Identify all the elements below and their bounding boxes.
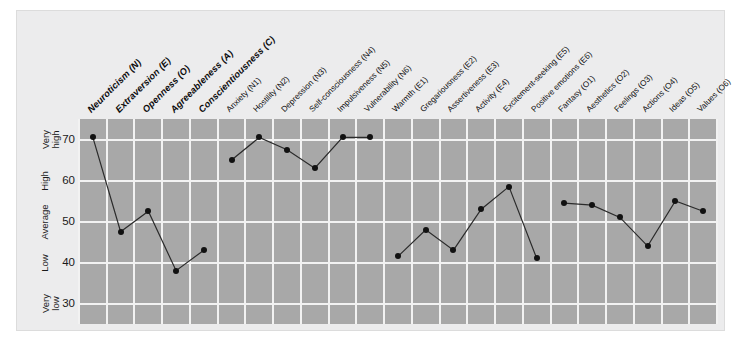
gridline-vertical xyxy=(355,119,357,324)
gridline-vertical xyxy=(633,119,635,324)
data-point-marker xyxy=(118,229,124,235)
gridline-horizontal xyxy=(79,303,717,305)
data-point-marker xyxy=(229,157,235,163)
gridline-vertical xyxy=(577,119,579,324)
gridline-vertical xyxy=(78,119,80,324)
y-axis-tick-number: 50 xyxy=(49,216,75,227)
series-line xyxy=(93,137,204,270)
y-axis-tick-number: 40 xyxy=(49,257,75,268)
gridline-vertical xyxy=(522,119,524,324)
gridline-vertical xyxy=(217,119,219,324)
data-point-marker xyxy=(395,253,401,259)
gridline-vertical xyxy=(494,119,496,324)
gridline-vertical xyxy=(383,119,385,324)
data-point-marker xyxy=(340,134,346,140)
data-point-marker xyxy=(450,247,456,253)
gridline-vertical xyxy=(189,119,191,324)
y-axis-tick-label: Average xyxy=(40,199,50,245)
plot-area xyxy=(79,119,717,324)
data-point-marker xyxy=(312,165,318,171)
gridline-vertical xyxy=(439,119,441,324)
y-axis-tick-number: 60 xyxy=(49,175,75,186)
data-point-marker xyxy=(700,208,706,214)
gridline-vertical xyxy=(716,119,718,324)
y-axis-tick-label: Verylow xyxy=(41,280,60,326)
data-point-marker xyxy=(173,268,179,274)
data-point-marker xyxy=(284,147,290,153)
gridline-vertical xyxy=(605,119,607,324)
data-point-marker xyxy=(201,247,207,253)
y-axis-tick-label: Veryhigh xyxy=(41,116,60,162)
gridline-vertical xyxy=(161,119,163,324)
gridline-vertical xyxy=(661,119,663,324)
gridline-vertical xyxy=(133,119,135,324)
gridline-horizontal xyxy=(79,262,717,264)
data-point-marker xyxy=(423,227,429,233)
gridline-horizontal xyxy=(79,221,717,223)
gridline-vertical xyxy=(466,119,468,324)
gridline-vertical xyxy=(550,119,552,324)
data-point-marker xyxy=(617,214,623,220)
data-point-marker xyxy=(506,184,512,190)
gridline-vertical xyxy=(688,119,690,324)
gridline-vertical xyxy=(272,119,274,324)
gridline-vertical xyxy=(106,119,108,324)
y-axis-tick-label: Low xyxy=(40,240,50,286)
y-axis-tick-label: High xyxy=(40,158,50,204)
data-point-marker xyxy=(478,206,484,212)
gridline-vertical xyxy=(300,119,302,324)
x-axis-label: Values (O6) xyxy=(696,77,733,114)
gridline-vertical xyxy=(411,119,413,324)
personality-profile-chart-page: 7060504030VeryhighHighAverageLowVerylow … xyxy=(0,0,745,343)
gridline-horizontal xyxy=(79,139,717,141)
chart-panel: 7060504030VeryhighHighAverageLowVerylow … xyxy=(16,10,725,331)
data-point-marker xyxy=(672,198,678,204)
data-point-marker xyxy=(645,243,651,249)
gridline-vertical xyxy=(328,119,330,324)
data-point-marker xyxy=(561,200,567,206)
data-point-marker xyxy=(145,208,151,214)
data-point-marker xyxy=(534,255,540,261)
gridline-horizontal xyxy=(79,180,717,182)
gridline-vertical xyxy=(244,119,246,324)
data-point-marker xyxy=(589,202,595,208)
